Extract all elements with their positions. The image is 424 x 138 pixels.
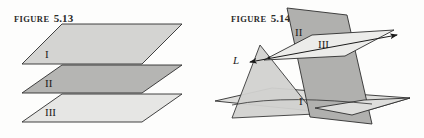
plane-1-label: I bbox=[45, 48, 49, 60]
plane-3-group: III bbox=[22, 94, 182, 122]
figure-5-14-panel: FIGURE 5.14 II bbox=[212, 0, 424, 138]
plane-1-group: I bbox=[22, 24, 182, 64]
plane-2-label: II bbox=[45, 77, 53, 89]
figure-5-13-drawing: III II I bbox=[0, 0, 212, 138]
plane-2-group: II bbox=[22, 65, 182, 93]
plane-3-label: III bbox=[45, 106, 56, 118]
plane-2-label: II bbox=[295, 26, 303, 38]
figure-5-13-panel: FIGURE 5.13 III II I bbox=[0, 0, 212, 138]
figure-5-14-drawing: II III I L bbox=[212, 0, 424, 138]
plane-1-label: I bbox=[299, 95, 303, 107]
line-L-label: L bbox=[232, 54, 239, 66]
intersection-point bbox=[268, 57, 271, 60]
figure-pair-container: FIGURE 5.13 III II I FIGURE 5.14 bbox=[0, 0, 424, 138]
